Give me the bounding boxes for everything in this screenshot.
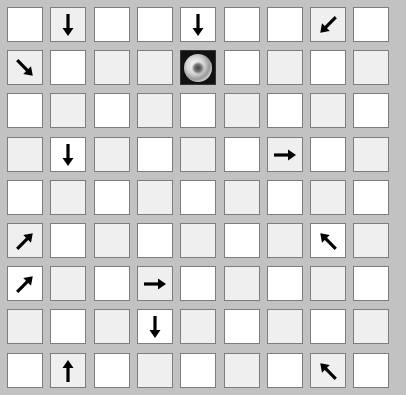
board-cell-r3-c5[interactable] [224,137,260,172]
board-cell-r4-c3[interactable] [137,180,173,215]
board-cell-r0-c0[interactable] [7,7,43,42]
board-cell-r1-c3[interactable] [137,50,173,85]
board-cell-r8-c7[interactable] [310,353,346,388]
board-cell-r6-c3[interactable] [137,266,173,301]
board-cell-r4-c4[interactable] [180,180,216,215]
board-cell-r1-c2[interactable] [94,50,130,85]
board-cell-r6-c8[interactable] [353,266,389,301]
board-cell-r2-c8[interactable] [353,93,389,128]
board-cell-r7-c3[interactable] [137,309,173,344]
board-cell-r0-c8[interactable] [353,7,389,42]
board-cell-r6-c7[interactable] [310,266,346,301]
board-cell-r8-c5[interactable] [224,353,260,388]
arrow-down-icon [140,312,170,342]
board-cell-r7-c1[interactable] [50,309,86,344]
board-cell-r4-c8[interactable] [353,180,389,215]
board-cell-r7-c6[interactable] [267,309,303,344]
board-cell-r2-c3[interactable] [137,93,173,128]
board-cell-r6-c5[interactable] [224,266,260,301]
board-cell-r7-c5[interactable] [224,309,260,344]
board-cell-r3-c4[interactable] [180,137,216,172]
board-cell-r5-c0[interactable] [7,223,43,258]
arrow-upright-icon [10,226,40,256]
board-cell-r7-c2[interactable] [94,309,130,344]
board-cell-r8-c4[interactable] [180,353,216,388]
board-cell-r5-c4[interactable] [180,223,216,258]
board-cell-r5-c6[interactable] [267,223,303,258]
board-cell-r4-c2[interactable] [94,180,130,215]
board-cell-r2-c4[interactable] [180,93,216,128]
board-cell-r1-c4[interactable] [180,50,216,85]
board-cell-r3-c8[interactable] [353,137,389,172]
board-cell-r1-c8[interactable] [353,50,389,85]
board-cell-r5-c7[interactable] [310,223,346,258]
board-cell-r2-c0[interactable] [7,93,43,128]
arrow-downright-icon [10,53,40,83]
board-cell-r3-c0[interactable] [7,137,43,172]
board-cell-r0-c1[interactable] [50,7,86,42]
board-cell-r4-c7[interactable] [310,180,346,215]
board-cell-r0-c3[interactable] [137,7,173,42]
board-cell-r4-c5[interactable] [224,180,260,215]
board-cell-r3-c2[interactable] [94,137,130,172]
board-cell-r5-c1[interactable] [50,223,86,258]
board-cell-r0-c2[interactable] [94,7,130,42]
arrow-upleft-icon [313,356,343,386]
board-cell-r3-c3[interactable] [137,137,173,172]
arrow-right-icon [140,269,170,299]
board-cell-r0-c6[interactable] [267,7,303,42]
board-cell-r8-c0[interactable] [7,353,43,388]
board-cell-r0-c7[interactable] [310,7,346,42]
board-cell-r2-c6[interactable] [267,93,303,128]
board-cell-r2-c1[interactable] [50,93,86,128]
board-cell-r1-c7[interactable] [310,50,346,85]
board-cell-r1-c5[interactable] [224,50,260,85]
arrow-down-icon [53,10,83,40]
board-cell-r7-c4[interactable] [180,309,216,344]
board-cell-r1-c0[interactable] [7,50,43,85]
board-cell-r5-c8[interactable] [353,223,389,258]
arrow-downleft-icon [313,10,343,40]
board-cell-r3-c7[interactable] [310,137,346,172]
game-board [0,0,406,395]
board-cell-r8-c8[interactable] [353,353,389,388]
arrow-upleft-icon [313,226,343,256]
board-cell-r7-c7[interactable] [310,309,346,344]
board-cell-r5-c5[interactable] [224,223,260,258]
board-cell-r8-c1[interactable] [50,353,86,388]
board-cell-r2-c2[interactable] [94,93,130,128]
board-cell-r5-c2[interactable] [94,223,130,258]
arrow-down-icon [53,140,83,170]
board-cell-r0-c4[interactable] [180,7,216,42]
board-cell-r6-c2[interactable] [94,266,130,301]
ball-icon [184,54,212,82]
board-cell-r7-c0[interactable] [7,309,43,344]
board-cell-r6-c0[interactable] [7,266,43,301]
board-cell-r1-c6[interactable] [267,50,303,85]
board-cell-r4-c0[interactable] [7,180,43,215]
board-cell-r4-c1[interactable] [50,180,86,215]
board-cell-r2-c5[interactable] [224,93,260,128]
board-cell-r8-c3[interactable] [137,353,173,388]
board-cell-r3-c1[interactable] [50,137,86,172]
board-cell-r3-c6[interactable] [267,137,303,172]
board-cell-r5-c3[interactable] [137,223,173,258]
board-cell-r4-c6[interactable] [267,180,303,215]
board-cell-r1-c1[interactable] [50,50,86,85]
board-cell-r6-c4[interactable] [180,266,216,301]
board-cell-r2-c7[interactable] [310,93,346,128]
board-cell-r6-c6[interactable] [267,266,303,301]
board-cell-r0-c5[interactable] [224,7,260,42]
arrow-down-icon [183,10,213,40]
board-cell-r8-c2[interactable] [94,353,130,388]
arrow-up-icon [53,356,83,386]
board-cell-r6-c1[interactable] [50,266,86,301]
board-cell-r7-c8[interactable] [353,309,389,344]
board-cell-r8-c6[interactable] [267,353,303,388]
arrow-upright-icon [10,269,40,299]
arrow-right-icon [270,140,300,170]
